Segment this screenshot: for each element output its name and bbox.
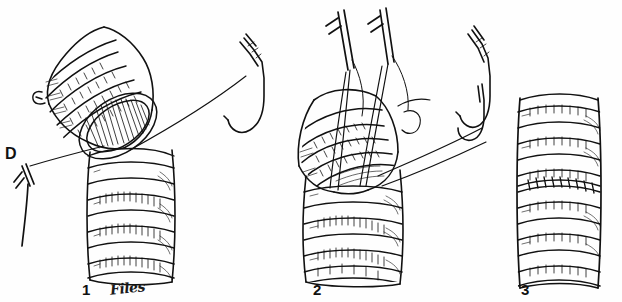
label-d: D <box>5 146 17 162</box>
label-panel-1: 1 <box>82 282 90 297</box>
surgical-figure: D 1 2 3 Files <box>0 0 622 302</box>
illustration-canvas <box>0 0 622 302</box>
figure-background <box>0 0 622 302</box>
label-panel-3: 3 <box>521 282 529 297</box>
label-panel-2: 2 <box>313 282 321 297</box>
